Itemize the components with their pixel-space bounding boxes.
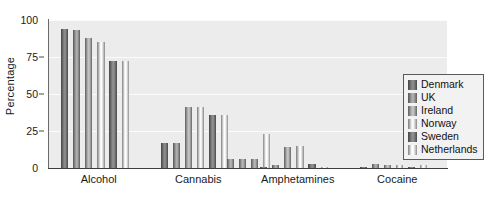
- legend-item-norway[interactable]: Norway: [408, 117, 478, 130]
- x-axis-label-amphetamines: Amphetamines: [261, 173, 334, 185]
- bar-series-container: [49, 20, 447, 168]
- y-axis-tick-mark-25: [39, 131, 44, 132]
- legend-item-sweden[interactable]: Sweden: [408, 130, 478, 143]
- legend-label-norway: Norway: [421, 118, 457, 129]
- bar-alcohol-uk: [73, 30, 80, 168]
- bar-cannabis-ireland: [185, 107, 192, 168]
- legend-label-uk: UK: [421, 92, 436, 103]
- bar-cannabis-netherlands-tall: [263, 134, 270, 168]
- bar-cannabis-low-1: [239, 159, 246, 168]
- legend-item-ireland[interactable]: Ireland: [408, 104, 478, 117]
- bar-cannabis-low-0: [227, 159, 234, 168]
- chart-legend: DenmarkUKIrelandNorwaySwedenNetherlands: [403, 74, 484, 160]
- bar-amphetamines-norway: [296, 146, 303, 168]
- bar-cannabis-norway: [197, 107, 204, 168]
- legend-label-denmark: Denmark: [421, 79, 464, 90]
- x-axis-label-cannabis: Cannabis: [175, 173, 221, 185]
- legend-swatch-netherlands: [408, 145, 417, 155]
- bar-cannabis-uk: [173, 143, 180, 168]
- y-axis-tick-0: 0: [32, 163, 38, 174]
- bar-alcohol-sweden: [109, 61, 116, 168]
- bar-alcohol-netherlands: [122, 61, 129, 168]
- legend-label-netherlands: Netherlands: [421, 144, 478, 155]
- legend-swatch-ireland: [408, 106, 417, 116]
- x-axis-label-alcohol: Alcohol: [81, 173, 117, 185]
- legend-label-ireland: Ireland: [421, 105, 453, 116]
- bar-alcohol-norway: [97, 42, 104, 168]
- bar-alcohol-ireland: [85, 38, 92, 168]
- x-axis-category-labels: AlcoholCannabisAmphetaminesCocaine: [49, 171, 447, 191]
- bar-cannabis-sweden: [209, 115, 216, 168]
- bar-cannabis-denmark: [161, 143, 168, 168]
- x-axis-label-cocaine: Cocaine: [377, 173, 417, 185]
- legend-swatch-sweden: [408, 132, 417, 142]
- legend-label-sweden: Sweden: [421, 131, 459, 142]
- bar-amphetamines-ireland: [284, 147, 291, 168]
- plot-area: [49, 20, 447, 168]
- legend-swatch-uk: [408, 93, 417, 103]
- y-axis-tick-mark-75: [39, 57, 44, 58]
- y-axis-title: Percentage: [0, 0, 20, 172]
- chart-figure: Percentage 0255075100 AlcoholCannabisAmp…: [0, 0, 503, 199]
- x-axis-line: [48, 168, 448, 169]
- bar-alcohol-denmark: [61, 29, 68, 168]
- y-axis-tick-labels: 0255075100: [18, 14, 44, 168]
- legend-item-denmark[interactable]: Denmark: [408, 78, 478, 91]
- y-axis-tick-50: 50: [26, 89, 38, 100]
- y-axis-tick-25: 25: [26, 126, 38, 137]
- legend-item-netherlands[interactable]: Netherlands: [408, 143, 478, 156]
- legend-swatch-denmark: [408, 80, 417, 90]
- y-axis-tick-mark-50: [39, 94, 44, 95]
- y-axis-tick-100: 100: [20, 15, 38, 26]
- bar-cannabis-low-2: [251, 159, 258, 168]
- legend-item-uk[interactable]: UK: [408, 91, 478, 104]
- legend-swatch-norway: [408, 119, 417, 129]
- y-axis-title-text: Percentage: [4, 57, 16, 115]
- y-axis-tick-75: 75: [26, 52, 38, 63]
